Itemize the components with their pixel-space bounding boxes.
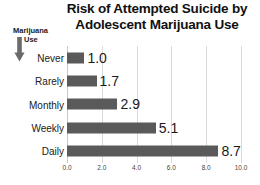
chart-title-line-1: Risk of Attempted Suicide by: [58, 1, 256, 17]
y-axis-category-label: Never: [0, 52, 64, 63]
y-axis-category-label: Rarely: [0, 76, 64, 87]
bar: [67, 52, 84, 63]
bar-value-label: 2.9: [117, 97, 139, 111]
bar-row: 1.7: [67, 69, 241, 92]
gridline: [241, 46, 242, 163]
y-axis-category-label: Monthly: [0, 99, 64, 110]
chart-title: Risk of Attempted Suicide by Adolescent …: [58, 1, 256, 32]
x-axis-tick-label: 10.0: [235, 164, 248, 172]
y-axis-category-labels: NeverRarelyMonthlyWeeklyDaily: [0, 46, 64, 163]
y-axis-group-label: Marijuana Use: [11, 26, 65, 44]
bar-value-label: 8.7: [218, 144, 240, 158]
plot-area: 1.01.72.95.18.7: [67, 46, 241, 163]
x-axis-tick-label: 2.0: [97, 164, 106, 172]
x-axis-tick-label: 0.0: [62, 164, 71, 172]
bar-row: 8.7: [67, 140, 241, 163]
bar-row: 1.0: [67, 46, 241, 69]
bar-row: 2.9: [67, 93, 241, 116]
x-axis-tick-label: 4.0: [132, 164, 141, 172]
bar-chart: Risk of Attempted Suicide by Adolescent …: [0, 0, 260, 185]
x-axis-tick-labels: 0.02.04.06.08.010.0: [67, 164, 241, 176]
bar-row: 5.1: [67, 116, 241, 139]
bar-value-label: 1.0: [84, 51, 106, 65]
x-axis-tick-label: 8.0: [202, 164, 211, 172]
y-axis-category-label: Weekly: [0, 122, 64, 133]
bar: [67, 76, 97, 87]
bar-value-label: 1.7: [97, 74, 119, 88]
x-axis-tick-label: 6.0: [167, 164, 176, 172]
bar-value-label: 5.1: [156, 121, 178, 135]
bar: [67, 122, 156, 133]
chart-title-line-2: Adolescent Marijuana Use: [58, 17, 256, 33]
bar: [67, 99, 117, 110]
bar: [67, 146, 218, 157]
y-axis-category-label: Daily: [0, 146, 64, 157]
y-axis-group-label-line-1: Marijuana: [11, 26, 65, 35]
